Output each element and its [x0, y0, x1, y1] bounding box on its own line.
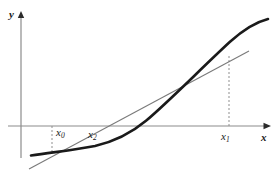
- point-label-x1-subscript: 1: [226, 135, 230, 144]
- function-curve: [31, 19, 268, 156]
- y-axis-arrow-icon: [18, 11, 24, 18]
- x-axis-arrow-icon: [264, 123, 272, 129]
- point-label-x1: x1: [221, 131, 230, 142]
- point-label-x2-subscript: 2: [93, 133, 97, 142]
- point-label-x0: x0: [56, 127, 65, 138]
- y-axis-label: y: [9, 9, 14, 20]
- secant-method-figure: y x x0 x2 x1: [0, 0, 278, 173]
- point-label-x0-subscript: 0: [61, 131, 65, 140]
- point-label-x2: x2: [88, 129, 97, 140]
- x-axis-label: x: [261, 132, 267, 143]
- y-axis-group: [18, 11, 24, 158]
- figure-canvas: [0, 0, 278, 173]
